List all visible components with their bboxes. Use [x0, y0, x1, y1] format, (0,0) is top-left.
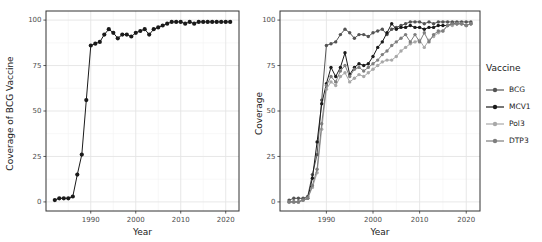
right-y-axis-title: Coverage — [254, 4, 265, 224]
right-x-axis-title: Year — [280, 227, 480, 237]
left-x-axis-title: Year — [46, 227, 239, 237]
legend: Vaccine BCG MCV1 Pol3 DTP3 — [486, 63, 531, 149]
figure: 19902000201020200255075100 1990200020102… — [0, 0, 542, 242]
legend-title: Vaccine — [486, 63, 531, 73]
svg-text:0: 0 — [271, 198, 275, 206]
legend-label-pol3: Pol3 — [509, 119, 525, 128]
mcv1-line-point-key-icon — [486, 101, 504, 113]
svg-text:0: 0 — [37, 198, 41, 206]
bcg-coverage-chart: 19902000201020200255075100 — [0, 0, 271, 242]
legend-label-mcv1: MCV1 — [509, 102, 531, 111]
svg-text:2000: 2000 — [127, 216, 145, 224]
svg-text:2000: 2000 — [364, 216, 382, 224]
pol3-line-point-key-icon — [486, 118, 504, 130]
left-y-axis-title: Coverage of BCG Vaccine — [5, 4, 16, 224]
svg-text:75: 75 — [267, 62, 276, 70]
svg-text:2020: 2020 — [217, 216, 235, 224]
legend-label-dtp3: DTP3 — [509, 136, 529, 145]
svg-text:1990: 1990 — [317, 216, 335, 224]
svg-text:100: 100 — [28, 16, 41, 24]
svg-text:50: 50 — [267, 107, 276, 115]
legend-label-bcg: BCG — [509, 85, 525, 94]
svg-text:50: 50 — [33, 107, 42, 115]
svg-text:2010: 2010 — [411, 216, 429, 224]
legend-item-mcv1: MCV1 — [486, 98, 531, 115]
svg-text:1990: 1990 — [82, 216, 100, 224]
bcg-line-point-key-icon — [486, 84, 504, 96]
svg-text:25: 25 — [33, 153, 42, 161]
svg-text:75: 75 — [33, 62, 42, 70]
dtp3-line-point-key-icon — [486, 135, 504, 147]
legend-item-pol3: Pol3 — [486, 115, 531, 132]
svg-text:2010: 2010 — [172, 216, 190, 224]
svg-text:2020: 2020 — [457, 216, 475, 224]
legend-item-dtp3: DTP3 — [486, 132, 531, 149]
legend-item-bcg: BCG — [486, 81, 531, 98]
svg-text:25: 25 — [267, 153, 276, 161]
